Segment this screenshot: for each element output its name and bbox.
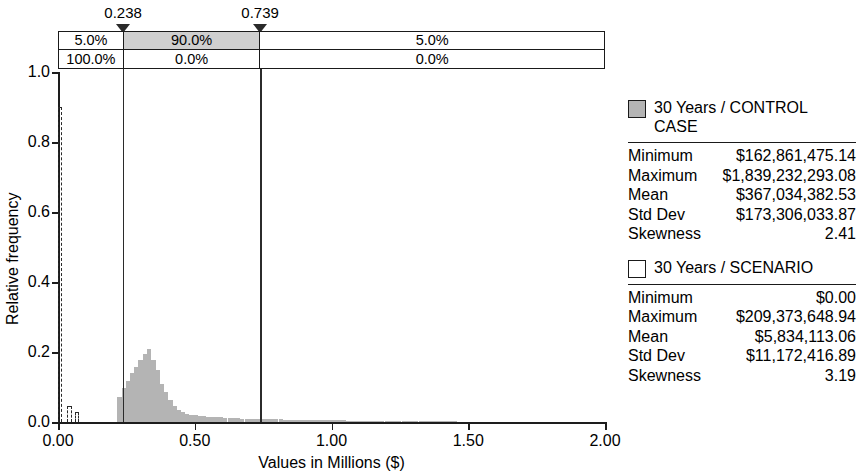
x-axis-label: Values in Millions ($) <box>258 454 404 472</box>
stat-row: Minimum$0.00 <box>628 288 856 308</box>
stat-name: Maximum <box>628 307 697 327</box>
stats-block: 30 Years / SCENARIOMinimum$0.00Maximum$2… <box>628 258 856 386</box>
percentile-cell: 0.0% <box>260 50 604 69</box>
y-tick-label: 0.2 <box>6 343 50 361</box>
marker-label-1: 0.238 <box>104 4 142 21</box>
stat-value: $367,034,382.53 <box>736 185 856 205</box>
percentile-row: 100.0%0.0%0.0% <box>59 50 604 69</box>
stats-table: Minimum$0.00Maximum$209,373,648.94Mean$5… <box>628 284 856 386</box>
y-tick-label: 0.0 <box>6 413 50 431</box>
stat-row: Maximum$1,839,232,293.08 <box>628 166 856 186</box>
y-axis-label: Relative frequency <box>4 192 22 325</box>
x-tick-label: 0.00 <box>42 432 73 450</box>
stat-value: $0.00 <box>816 288 856 308</box>
y-tick-label: 1.0 <box>6 63 50 81</box>
x-tick-label: 0.50 <box>179 432 210 450</box>
percentile-cell: 5.0% <box>59 32 124 49</box>
histogram-bar-scenario <box>75 412 79 423</box>
stat-row: Mean$367,034,382.53 <box>628 185 856 205</box>
stat-name: Minimum <box>628 288 693 308</box>
marker-line-1 <box>123 69 124 422</box>
stat-value: $1,839,232,293.08 <box>723 166 856 186</box>
y-tick <box>52 72 58 74</box>
stat-value: $11,172,416.89 <box>746 346 856 366</box>
stat-value: $162,861,475.14 <box>736 146 856 166</box>
stat-row: Std Dev$173,306,033.87 <box>628 205 856 225</box>
stat-value: $209,373,648.94 <box>736 307 856 327</box>
legend-swatch-icon <box>628 100 646 118</box>
legend-label: 30 Years / CONTROL CASE <box>654 98 834 136</box>
x-tick <box>58 424 60 430</box>
stat-row: Maximum$209,373,648.94 <box>628 307 856 327</box>
legend-entry[interactable]: 30 Years / SCENARIO <box>628 258 856 278</box>
legend-entry[interactable]: 30 Years / CONTROL CASE <box>628 98 856 136</box>
percentile-cell: 90.0% <box>124 32 261 49</box>
stat-value: 2.41 <box>825 224 856 244</box>
legend-label: 30 Years / SCENARIO <box>654 258 813 277</box>
stat-value: $5,834,113.06 <box>755 327 856 347</box>
stat-name: Mean <box>628 185 668 205</box>
histogram-bar-scenario <box>67 406 71 422</box>
x-tick <box>605 424 607 430</box>
x-tick <box>332 424 334 430</box>
x-tick-label: 1.00 <box>316 432 347 450</box>
stat-name: Std Dev <box>628 205 685 225</box>
y-tick-label: 0.8 <box>6 133 50 151</box>
x-tick <box>468 424 470 430</box>
marker-line-2 <box>260 69 261 422</box>
stat-name: Mean <box>628 327 668 347</box>
histogram-bar-scenario <box>58 107 62 422</box>
stat-value: $173,306,033.87 <box>736 205 856 225</box>
stat-row: Skewness3.19 <box>628 366 856 386</box>
stat-name: Minimum <box>628 146 693 166</box>
marker-label-2: 0.739 <box>241 4 279 21</box>
stat-row: Std Dev$11,172,416.89 <box>628 346 856 366</box>
stat-row: Skewness2.41 <box>628 224 856 244</box>
x-tick <box>195 424 197 430</box>
x-tick-label: 1.50 <box>453 432 484 450</box>
stat-value: 3.19 <box>825 366 856 386</box>
stat-name: Maximum <box>628 166 697 186</box>
histogram-bar-control <box>452 421 456 422</box>
stat-row: Mean$5,834,113.06 <box>628 327 856 347</box>
stats-table: Minimum$162,861,475.14Maximum$1,839,232,… <box>628 142 856 244</box>
legend-stats-panel: 30 Years / CONTROL CASEMinimum$162,861,4… <box>628 98 856 385</box>
stat-row: Minimum$162,861,475.14 <box>628 146 856 166</box>
percentile-cell: 5.0% <box>260 32 604 49</box>
x-tick-label: 2.00 <box>589 432 620 450</box>
percentile-cell: 100.0% <box>59 50 124 69</box>
stat-name: Skewness <box>628 366 701 386</box>
percentile-cell: 0.0% <box>124 50 261 69</box>
stats-block: 30 Years / CONTROL CASEMinimum$162,861,4… <box>628 98 856 244</box>
percentile-row: 5.0%90.0%5.0% <box>59 32 604 50</box>
stat-name: Skewness <box>628 224 701 244</box>
stat-name: Std Dev <box>628 346 685 366</box>
percentile-table: 5.0%90.0%5.0%100.0%0.0%0.0% <box>58 31 605 69</box>
legend-swatch-icon <box>628 260 646 278</box>
